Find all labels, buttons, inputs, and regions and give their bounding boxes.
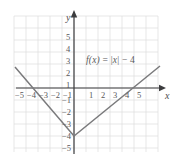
x-tick-label-neg2: −2 xyxy=(51,91,60,100)
function-equation-label: f(x) = |x| − 4 xyxy=(86,56,135,66)
x-tick-label-neg4: −4 xyxy=(27,91,36,100)
y-tick-label-neg3: −3 xyxy=(62,120,71,129)
graph-figure: −5 −4 −3 −2 −1 1 2 3 4 5 5 4 3 2 1 −1 −2… xyxy=(0,0,175,166)
y-tick-label-neg5: −5 xyxy=(62,144,71,153)
y-axis-arrow xyxy=(71,10,77,18)
x-tick-label-5: 5 xyxy=(137,91,141,100)
x-axis-label: x xyxy=(165,91,169,101)
x-tick-label-1: 1 xyxy=(89,91,93,100)
absolute-value-curve xyxy=(15,66,160,136)
y-tick-label-1: 1 xyxy=(66,81,70,90)
x-tick-label-neg5: −5 xyxy=(15,91,24,100)
equation-argument: (x) xyxy=(89,55,100,65)
grid-lines xyxy=(14,16,158,152)
x-tick-label-4: 4 xyxy=(125,91,129,100)
y-tick-label-neg2: −2 xyxy=(62,108,71,117)
y-axis-label: y xyxy=(66,13,70,23)
y-tick-label-neg4: −4 xyxy=(62,132,71,141)
x-tick-label-2: 2 xyxy=(101,91,105,100)
y-tick-label-3: 3 xyxy=(66,57,70,66)
x-tick-label-3: 3 xyxy=(113,91,117,100)
x-tick-label-neg3: −3 xyxy=(39,91,48,100)
y-tick-label-5: 5 xyxy=(66,33,70,42)
y-tick-label-2: 2 xyxy=(66,69,70,78)
y-tick-label-4: 4 xyxy=(66,45,70,54)
equation-operator: = | xyxy=(100,55,113,65)
y-tick-label-neg1: −1 xyxy=(62,96,71,105)
coordinate-plane xyxy=(0,0,175,166)
equation-tail: | − 4 xyxy=(117,55,135,65)
